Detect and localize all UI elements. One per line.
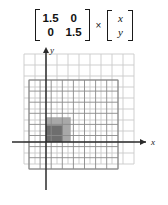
matrix-equation: 1.5 0 0 1.5 × x y [0, 3, 168, 47]
original-square [46, 126, 63, 143]
coordinate-plane: x y [0, 45, 168, 205]
matrix-cell-r0c0: 1.5 [43, 11, 59, 25]
matrix-cell-r0c1: 0 [66, 11, 82, 25]
vector-grid: x y [113, 10, 127, 41]
matrix-grid: 1.5 0 0 1.5 [41, 9, 84, 41]
coordinate-vector: x y [107, 10, 133, 41]
vector-cell-y: y [116, 26, 124, 39]
multiplication-icon: × [95, 20, 103, 31]
scaling-matrix: 1.5 0 0 1.5 [35, 9, 90, 41]
matrix-cell-r1c1: 1.5 [66, 25, 82, 39]
scaling-transformation-figure: 1.5 0 0 1.5 × x y [0, 0, 168, 205]
coordinate-plane-svg: x y [0, 45, 168, 205]
matrix-cell-r1c0: 0 [43, 25, 59, 39]
overlay-grid [29, 80, 118, 169]
y-axis-label: y [49, 45, 54, 55]
vector-cell-x: x [116, 12, 124, 25]
x-axis-label: x [150, 137, 155, 147]
